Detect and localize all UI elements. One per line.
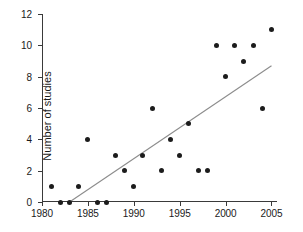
y-tick-label: 12 — [21, 9, 32, 20]
data-point — [150, 106, 155, 111]
data-point — [113, 153, 118, 158]
y-tick-label: 8 — [26, 71, 32, 82]
y-tick-label: 6 — [26, 103, 32, 114]
x-tick-label: 1985 — [77, 208, 99, 219]
data-point — [177, 153, 182, 158]
x-tick-mark — [180, 202, 181, 206]
data-point — [67, 200, 72, 205]
y-tick-label: 10 — [21, 40, 32, 51]
data-point — [196, 168, 201, 173]
data-point — [95, 200, 100, 205]
data-point — [214, 43, 219, 48]
y-tick-label: 0 — [26, 197, 32, 208]
x-tick-mark — [42, 202, 43, 206]
x-tick-label: 2000 — [215, 208, 237, 219]
x-tick-mark — [134, 202, 135, 206]
x-tick-mark — [226, 202, 227, 206]
data-point — [168, 137, 173, 142]
x-tick-mark — [271, 202, 272, 206]
chart-figure: Number of studies 024681012 198019851990… — [0, 0, 303, 232]
data-point — [251, 43, 256, 48]
data-point — [159, 168, 164, 173]
data-point — [104, 200, 109, 205]
y-tick-label: 4 — [26, 134, 32, 145]
data-point — [205, 168, 210, 173]
data-point — [58, 200, 63, 205]
x-tick-mark — [88, 202, 89, 206]
x-tick-label: 1980 — [31, 208, 53, 219]
plot-area: 024681012 198019851990199520002005 — [42, 14, 277, 202]
x-tick-label: 1990 — [123, 208, 145, 219]
data-point — [49, 184, 54, 189]
x-tick-label: 2005 — [261, 208, 283, 219]
x-tick-label: 1995 — [169, 208, 191, 219]
trend-line — [42, 14, 277, 202]
data-point — [260, 106, 265, 111]
y-tick-label: 2 — [26, 165, 32, 176]
